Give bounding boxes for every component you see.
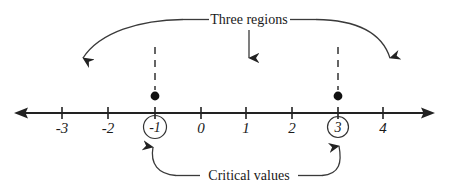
three-regions-arrow-left (83, 20, 183, 59)
critical-values-arrow-left (152, 147, 176, 176)
critical-values-arrow-right (322, 146, 340, 176)
critical-value-markers (151, 47, 343, 100)
number-line-canvas: Three regions (0, 0, 449, 192)
three-regions-arrow-right (316, 20, 390, 59)
number-line-figure: Three regions (0, 0, 449, 192)
number-line-axis: -3 -2 0 1 2 4 (14, 107, 435, 136)
critical-values-annotation: Critical values (152, 146, 340, 183)
tick-label-4: 4 (379, 120, 387, 136)
critical-values-label: Critical values (208, 168, 289, 183)
critical-value-label-left: -1 (149, 120, 161, 135)
three-regions-annotation: Three regions (83, 12, 390, 58)
tick-label-1: 1 (242, 120, 250, 136)
plotted-point-left (151, 92, 160, 101)
tick-label-0: 0 (197, 120, 205, 136)
tick-label-neg3: -3 (56, 120, 69, 136)
three-regions-label: Three regions (210, 12, 287, 27)
critical-value-label-right: 3 (334, 120, 342, 135)
plotted-point-right (334, 92, 343, 101)
tick-label-neg2: -2 (102, 120, 115, 136)
tick-label-2: 2 (288, 120, 296, 136)
